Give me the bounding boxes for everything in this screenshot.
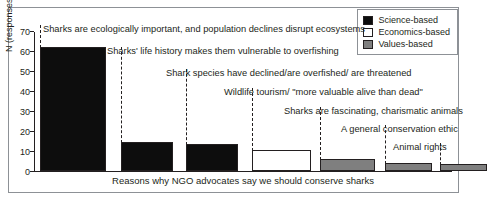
y-tick-mark bbox=[30, 71, 34, 72]
bar[interactable] bbox=[40, 47, 106, 171]
legend-item-values: Values-based bbox=[363, 38, 450, 50]
bar[interactable] bbox=[121, 142, 173, 171]
y-tick-mark bbox=[30, 111, 34, 112]
legend-item-science: Science-based bbox=[363, 14, 450, 26]
legend-swatch-values-icon bbox=[363, 40, 373, 49]
bar[interactable] bbox=[385, 163, 432, 171]
bar[interactable] bbox=[320, 159, 375, 171]
bar-annotation-label: Animal rights bbox=[393, 143, 447, 152]
y-tick-mark bbox=[30, 51, 34, 52]
y-tick-mark bbox=[30, 91, 34, 92]
legend-label-economics: Economics-based bbox=[378, 28, 450, 37]
bar-annotation-label: Sharks are fascinating, charismatic anim… bbox=[284, 107, 463, 116]
legend-label-science: Science-based bbox=[378, 16, 438, 25]
y-tick-mark bbox=[30, 151, 34, 152]
x-axis-line bbox=[34, 171, 452, 172]
bar-annotation-label: Sharks' life history makes them vulnerab… bbox=[107, 47, 339, 56]
bar[interactable] bbox=[186, 144, 238, 171]
bar[interactable] bbox=[252, 150, 311, 171]
legend-label-values: Values-based bbox=[378, 40, 432, 49]
y-tick-label: 0 bbox=[25, 167, 30, 176]
bar-annotation-label: Shark species have declined/are overfish… bbox=[166, 69, 412, 78]
annotation-leader-line bbox=[252, 88, 253, 151]
annotation-leader-line bbox=[186, 69, 187, 145]
bar[interactable] bbox=[440, 164, 487, 171]
y-axis-title: N (responses) bbox=[5, 0, 14, 52]
y-tick-label: 20 bbox=[20, 127, 30, 136]
y-tick-mark bbox=[30, 131, 34, 132]
y-tick-mark bbox=[30, 31, 34, 32]
y-axis-line bbox=[34, 32, 35, 172]
x-axis-title: Reasons why NGO advocates say we should … bbox=[34, 176, 452, 186]
y-tick-label: 60 bbox=[20, 47, 30, 56]
y-tick-mark bbox=[30, 171, 34, 172]
annotation-leader-line bbox=[40, 25, 41, 48]
annotation-leader-line bbox=[121, 47, 122, 143]
bar-annotation-label: A general conservation ethic bbox=[341, 125, 458, 134]
bar-annotation-label: Sharks are ecologically important, and p… bbox=[43, 25, 365, 34]
y-tick-label: 10 bbox=[20, 147, 30, 156]
y-tick-label: 30 bbox=[20, 107, 30, 116]
y-tick-label: 40 bbox=[20, 87, 30, 96]
y-tick-label: 50 bbox=[20, 67, 30, 76]
bar-annotation-label: Wildlife tourism/ "more valuable alive t… bbox=[224, 88, 423, 97]
legend: Science-based Economics-based Values-bas… bbox=[357, 9, 458, 55]
legend-item-economics: Economics-based bbox=[363, 26, 450, 38]
y-tick-label: 70 bbox=[20, 27, 30, 36]
